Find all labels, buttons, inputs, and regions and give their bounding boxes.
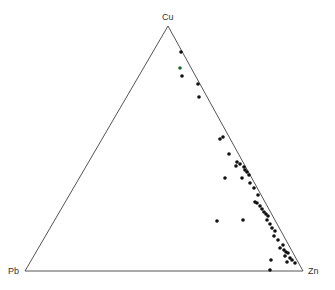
vertex-label-zn: Zn	[308, 266, 319, 276]
data-point	[240, 176, 244, 180]
data-point	[227, 152, 231, 156]
data-point	[197, 95, 201, 99]
data-point	[278, 246, 282, 250]
data-point	[221, 135, 225, 139]
data-point	[265, 218, 269, 222]
data-point	[293, 261, 297, 265]
data-point	[276, 238, 280, 242]
data-point	[238, 162, 242, 166]
data-point	[223, 176, 227, 180]
data-point	[272, 234, 276, 238]
data-point	[258, 204, 262, 208]
data-point	[235, 160, 239, 164]
data-point	[269, 258, 273, 262]
data-point	[290, 258, 294, 262]
data-point	[256, 193, 260, 197]
ternary-triangle	[25, 26, 303, 271]
data-point	[196, 82, 200, 86]
data-point	[178, 66, 182, 70]
data-point	[260, 207, 264, 211]
data-point	[255, 201, 259, 205]
data-point	[285, 260, 289, 264]
data-point	[266, 214, 270, 218]
data-point	[248, 181, 252, 185]
data-point	[234, 164, 238, 168]
vertex-label-cu: Cu	[162, 12, 174, 22]
data-point	[180, 74, 184, 78]
data-point	[215, 219, 219, 223]
data-point	[270, 226, 274, 230]
data-point	[245, 170, 249, 174]
data-point	[179, 50, 183, 54]
data-point	[268, 268, 272, 272]
data-point	[283, 254, 287, 258]
vertex-label-pb: Pb	[8, 266, 19, 276]
data-points	[178, 50, 297, 272]
data-point	[252, 186, 256, 190]
data-point	[268, 222, 272, 226]
data-point	[281, 243, 285, 247]
ternary-plot	[0, 0, 335, 290]
data-point	[273, 229, 277, 233]
data-point	[247, 173, 251, 177]
data-point	[218, 137, 222, 141]
data-point	[241, 218, 245, 222]
data-point	[286, 251, 290, 255]
